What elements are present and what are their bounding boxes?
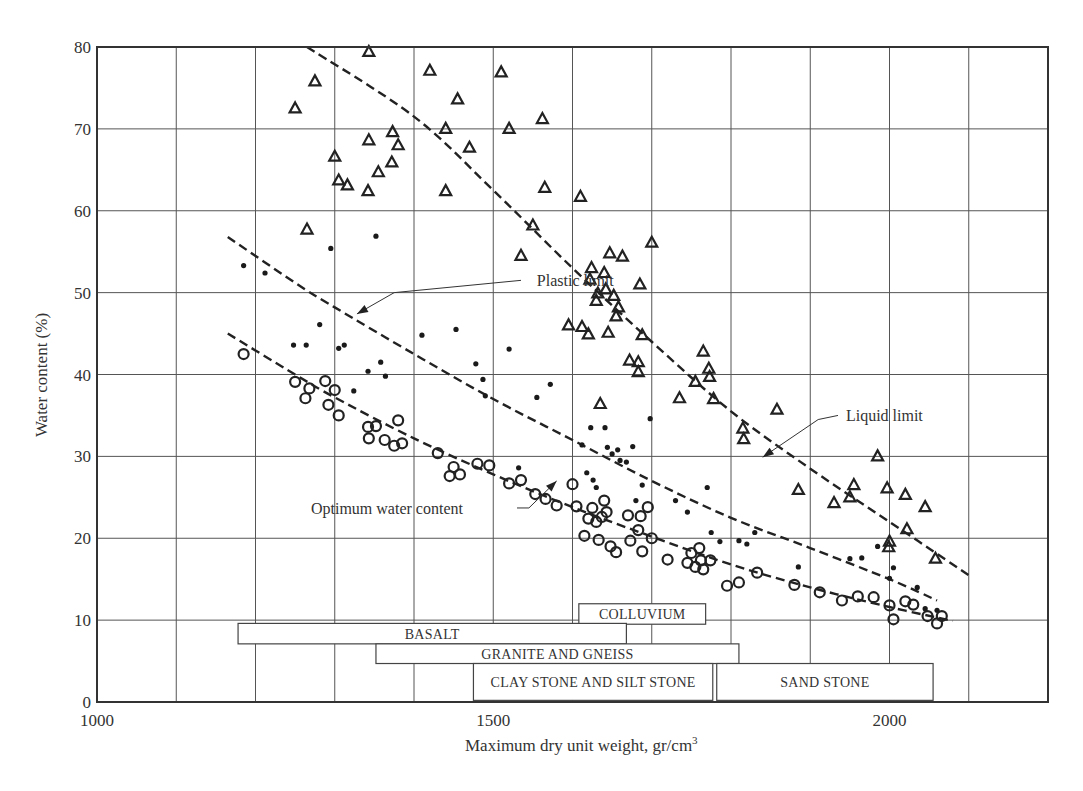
- series-liquid-limit: [290, 46, 941, 563]
- annotation-leader-line: [763, 415, 838, 457]
- triangle-marker: [393, 139, 404, 149]
- dot-marker: [304, 342, 309, 347]
- y-axis-label: Water content (%): [32, 313, 51, 437]
- x-tick-label: 1500: [476, 711, 510, 730]
- dot-marker: [483, 393, 488, 398]
- circle-marker: [239, 349, 249, 359]
- dot-marker: [648, 416, 653, 421]
- rock-range-bar: COLLUVIUM: [579, 604, 706, 624]
- x-axis-label: Maximum dry unit weight, gr/cm3: [465, 734, 698, 755]
- dot-marker: [673, 498, 678, 503]
- triangle-marker: [464, 142, 475, 152]
- rock-range-label: GRANITE AND GNEISS: [481, 647, 633, 662]
- y-tick-label: 80: [74, 38, 91, 57]
- dot-marker: [507, 347, 512, 352]
- circle-marker: [623, 510, 633, 520]
- dot-marker: [915, 585, 920, 590]
- dot-marker: [705, 485, 710, 490]
- dot-marker: [605, 445, 610, 450]
- circle-marker: [455, 469, 465, 479]
- triangle-marker: [539, 182, 550, 192]
- annotation-label: Optimum water content: [311, 500, 464, 518]
- dot-marker: [633, 498, 638, 503]
- triangle-marker: [504, 123, 515, 133]
- y-tick-label: 40: [74, 366, 91, 385]
- dot-marker: [383, 374, 388, 379]
- trend-line-optimum-water-content: [228, 334, 953, 621]
- y-tick-label: 20: [74, 529, 91, 548]
- triangle-marker: [387, 126, 398, 136]
- dot-marker: [342, 342, 347, 347]
- triangle-marker: [386, 156, 397, 166]
- triangle-marker: [583, 328, 594, 338]
- rock-range-label: BASALT: [405, 627, 460, 642]
- triangle-marker: [698, 346, 709, 356]
- triangle-marker: [604, 247, 615, 257]
- dot-marker: [453, 327, 458, 332]
- arrowhead-icon: [763, 448, 774, 457]
- dot-marker: [602, 425, 607, 430]
- circle-marker: [380, 435, 390, 445]
- series-plastic-limit: [241, 234, 940, 613]
- annotation-label: Liquid limit: [846, 407, 923, 425]
- y-tick-label: 70: [74, 120, 91, 139]
- x-axis-label-text: Maximum dry unit weight, gr/cm: [465, 736, 692, 755]
- y-tick-label: 60: [74, 202, 91, 221]
- dot-marker: [588, 425, 593, 430]
- dot-marker: [365, 369, 370, 374]
- data-points: [239, 46, 947, 628]
- triangle-marker: [793, 484, 804, 494]
- trend-line-liquid-limit: [307, 47, 969, 575]
- triangle-marker: [363, 134, 374, 144]
- circle-marker: [594, 535, 604, 545]
- triangle-marker: [302, 224, 313, 234]
- dot-marker: [373, 234, 378, 239]
- dot-marker: [548, 382, 553, 387]
- dot-marker: [328, 246, 333, 251]
- dot-marker: [584, 470, 589, 475]
- dot-marker: [891, 565, 896, 570]
- dot-marker: [630, 444, 635, 449]
- triangle-marker: [452, 93, 463, 103]
- dot-marker: [615, 447, 620, 452]
- triangle-marker: [617, 251, 628, 261]
- annotation-liquid-limit: Liquid limit: [763, 407, 924, 457]
- x-axis-label-superscript: 3: [692, 734, 698, 746]
- circle-marker: [663, 555, 673, 565]
- dot-marker: [534, 395, 539, 400]
- dot-marker: [685, 509, 690, 514]
- annotation-label: Plastic limit: [537, 272, 614, 289]
- triangle-marker: [920, 501, 931, 511]
- x-tick-label: 1000: [80, 711, 114, 730]
- triangle-marker: [342, 179, 353, 189]
- circle-marker: [587, 503, 597, 513]
- triangle-marker: [515, 250, 526, 260]
- circle-marker: [300, 393, 310, 403]
- scatter-chart: COLLUVIUMBASALTGRANITE AND GNEISSCLAY ST…: [0, 0, 1083, 791]
- triangle-marker: [595, 398, 606, 408]
- dot-marker: [610, 451, 615, 456]
- dot-marker: [480, 377, 485, 382]
- dot-marker: [744, 541, 749, 546]
- annotation-leader-line: [357, 280, 521, 314]
- triangle-marker: [440, 185, 451, 195]
- triangle-marker: [575, 191, 586, 201]
- gridlines: [97, 47, 1048, 702]
- dot-marker: [875, 544, 880, 549]
- dot-marker: [262, 270, 267, 275]
- triangle-marker: [882, 482, 893, 492]
- triangle-marker: [424, 65, 435, 75]
- circle-marker: [579, 531, 589, 541]
- circle-marker: [304, 383, 314, 393]
- y-tick-label: 50: [74, 284, 91, 303]
- dot-marker: [594, 485, 599, 490]
- dot-marker: [336, 346, 341, 351]
- dot-marker: [752, 530, 757, 535]
- circle-marker: [694, 543, 704, 553]
- rock-range-label: CLAY STONE AND SILT STONE: [491, 675, 696, 690]
- dot-marker: [516, 465, 521, 470]
- circle-marker: [636, 511, 646, 521]
- dot-marker: [624, 460, 629, 465]
- triangle-marker: [373, 166, 384, 176]
- dot-marker: [859, 555, 864, 560]
